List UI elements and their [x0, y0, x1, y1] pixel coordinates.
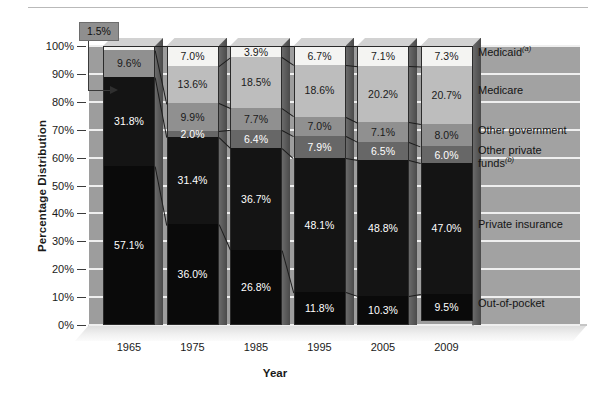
page-top-rule	[28, 7, 588, 8]
segment-value-label: 9.5%	[435, 302, 459, 313]
y-tick-mark	[77, 46, 86, 47]
segment-1985-out-of-pocket[interactable]: 26.8%	[230, 250, 282, 325]
x-tick-label-1965: 1965	[94, 341, 164, 353]
bar-2009[interactable]: 7.3%20.7%8.0%6.0%47.0%9.5%	[421, 46, 473, 325]
legend-item-footnote: (b)	[505, 155, 514, 164]
segment-connector-line	[409, 66, 421, 68]
segment-value-label: 36.0%	[178, 269, 208, 280]
segment-1995-other-private-funds[interactable]: 7.9%	[294, 136, 346, 158]
segment-connector-line	[155, 46, 167, 47]
y-tick-mark	[77, 269, 86, 270]
segment-2005-private-insurance[interactable]: 48.8%	[357, 160, 409, 296]
segment-2009-medicaid[interactable]: 7.3%	[421, 46, 473, 66]
y-tick-mark	[77, 74, 86, 75]
segment-value-label: 7.9%	[308, 142, 332, 153]
segment-2009-medicare[interactable]: 20.7%	[421, 66, 473, 124]
x-axis-title: Year	[80, 367, 470, 379]
segment-value-label: 7.0%	[181, 51, 205, 62]
segment-value-label: 7.3%	[435, 51, 459, 62]
segment-2005-medicare[interactable]: 20.2%	[357, 66, 409, 122]
segment-1975-medicare[interactable]: 13.6%	[167, 66, 219, 104]
segment-1995-out-of-pocket[interactable]: 11.8%	[294, 292, 346, 325]
y-tick-label: 70%	[52, 124, 74, 136]
segment-value-label: 7.1%	[371, 127, 395, 138]
legend-item-other-government[interactable]: Other government	[478, 124, 578, 136]
segment-1995-private-insurance[interactable]: 48.1%	[294, 158, 346, 292]
segment-value-label: 6.0%	[435, 150, 459, 161]
bar-side-face	[219, 38, 227, 325]
segment-value-label: 8.0%	[435, 130, 459, 141]
segment-value-label: 7.0%	[308, 121, 332, 132]
x-tick-label-1975: 1975	[158, 341, 228, 353]
segment-connector-line	[219, 46, 231, 47]
segment-2009-other-government[interactable]: 8.0%	[421, 124, 473, 146]
bar-side-face	[409, 38, 417, 325]
x-tick-label-2009: 2009	[412, 341, 482, 353]
y-tick-mark	[77, 213, 86, 214]
segment-1985-medicaid[interactable]: 3.9%	[230, 46, 282, 57]
segment-value-label: 3.9%	[244, 47, 268, 58]
legend-item-other-private-funds[interactable]: Other private funds(b)	[478, 144, 578, 169]
plot-floor	[75, 325, 587, 341]
segment-1975-other-government[interactable]: 9.9%	[167, 103, 219, 131]
y-tick-mark	[77, 130, 86, 131]
segment-connector-line	[409, 46, 421, 47]
legend-item-private-insurance[interactable]: Private insurance	[478, 218, 578, 230]
legend-item-medicaid[interactable]: Medicaid(a)	[478, 45, 578, 58]
segment-value-label: 31.4%	[178, 175, 208, 186]
segment-2009-private-insurance[interactable]: 47.0%	[421, 163, 473, 294]
segment-2005-other-government[interactable]: 7.1%	[357, 122, 409, 142]
bar-top-face	[357, 38, 417, 46]
segment-2009-other-private-funds[interactable]: 6.0%	[421, 146, 473, 163]
segment-1975-private-insurance[interactable]: 31.4%	[167, 137, 219, 225]
segment-2005-medicaid[interactable]: 7.1%	[357, 46, 409, 66]
y-tick-label: 0%	[58, 319, 74, 331]
segment-1985-private-insurance[interactable]: 36.7%	[230, 148, 282, 250]
legend-item-footnote: (a)	[522, 44, 531, 53]
segment-2005-other-private-funds[interactable]: 6.5%	[357, 142, 409, 160]
y-tick-label: 30%	[52, 235, 74, 247]
segment-1995-other-government[interactable]: 7.0%	[294, 117, 346, 137]
bar-2005[interactable]: 7.1%20.2%7.1%6.5%48.8%10.3%	[357, 46, 409, 325]
x-tick-label-1985: 1985	[221, 341, 291, 353]
y-tick-mark	[77, 241, 86, 242]
legend-item-medicare[interactable]: Medicare	[478, 84, 578, 96]
segment-value-label: 31.8%	[114, 116, 144, 127]
y-tick-mark	[77, 186, 86, 187]
segment-connector-line	[282, 46, 294, 47]
segment-1985-other-government[interactable]: 7.7%	[230, 108, 282, 129]
segment-1975-medicaid[interactable]: 7.0%	[167, 46, 219, 66]
segment-value-label: 36.7%	[241, 194, 271, 205]
callout-medicaid-1965: 1.5%	[79, 22, 119, 41]
segment-1995-medicaid[interactable]: 6.7%	[294, 46, 346, 65]
y-tick-mark	[77, 297, 86, 298]
segment-value-label: 47.0%	[432, 223, 462, 234]
segment-1995-medicare[interactable]: 18.6%	[294, 65, 346, 117]
legend-item-label: Other government	[478, 124, 567, 136]
segment-value-label: 20.2%	[368, 89, 398, 100]
segment-2005-out-of-pocket[interactable]: 10.3%	[357, 296, 409, 325]
segment-value-label: 9.6%	[117, 58, 141, 69]
legend-item-label: Private insurance	[478, 218, 563, 230]
segment-value-label: 7.1%	[371, 51, 395, 62]
segment-1965-other-government[interactable]: 9.6%	[103, 50, 155, 77]
segment-1985-other-private-funds[interactable]: 6.4%	[230, 130, 282, 148]
segment-1965-out-of-pocket[interactable]: 57.1%	[103, 166, 155, 325]
segment-2009-out-of-pocket[interactable]: 9.5%	[421, 294, 473, 321]
bar-1995[interactable]: 6.7%18.6%7.0%7.9%48.1%11.8%	[294, 46, 346, 325]
x-tick-label-2005: 2005	[348, 341, 418, 353]
segment-value-label: 13.6%	[178, 79, 208, 90]
segment-value-label: 48.8%	[368, 223, 398, 234]
segment-1975-out-of-pocket[interactable]: 36.0%	[167, 224, 219, 324]
segment-value-label: 20.7%	[432, 90, 462, 101]
segment-value-label: 10.3%	[368, 305, 398, 316]
bar-1975[interactable]: 7.0%13.6%9.9%2.0%31.4%36.0%	[167, 46, 219, 325]
y-tick-label: 50%	[52, 180, 74, 192]
legend-item-out-of-pocket[interactable]: Out-of-pocket	[478, 297, 578, 309]
y-tick-label: 10%	[52, 291, 74, 303]
segment-value-label: 18.6%	[305, 85, 335, 96]
bar-1985[interactable]: 3.9%18.5%7.7%6.4%36.7%26.8%	[230, 46, 282, 325]
segment-1985-medicare[interactable]: 18.5%	[230, 57, 282, 109]
y-tick-label: 80%	[52, 96, 74, 108]
segment-value-label: 2.0%	[181, 129, 205, 140]
